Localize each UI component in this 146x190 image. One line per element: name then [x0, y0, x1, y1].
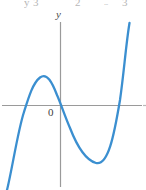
cubic-curve: [7, 23, 130, 190]
origin-label: 0: [48, 106, 54, 118]
figure-container: y 3 2 ... 3 y 0: [0, 0, 146, 190]
cubic-graph-plot: [0, 0, 146, 190]
y-axis-label: y: [56, 8, 61, 20]
